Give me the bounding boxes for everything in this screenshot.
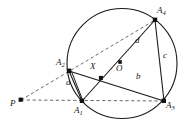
label-point-a2: A2 — [56, 58, 65, 67]
label-side-d: d — [135, 36, 140, 45]
label-point-a4-sub: 4 — [163, 9, 166, 16]
point-dot-a1 — [80, 99, 84, 103]
label-side-b: b — [136, 72, 141, 81]
label-side-a-text: a — [66, 77, 71, 87]
label-side-d-text: d — [135, 35, 140, 45]
segment-a1-a2-inner — [72, 72, 84, 102]
label-point-a3: A3 — [166, 101, 175, 110]
label-point-a2-sub: 2 — [62, 61, 65, 68]
dashed-line-p-a2-a4 — [21, 20, 155, 100]
segment-a2-a3 — [69, 71, 164, 101]
label-point-a3-sub: 3 — [172, 104, 175, 111]
label-point-a3-text: A — [166, 100, 172, 110]
point-dot-p — [19, 98, 23, 102]
label-point-a2-text: A — [56, 57, 62, 67]
label-point-p: P — [10, 99, 16, 108]
label-point-a4: A4 — [157, 6, 166, 15]
label-point-a4-text: A — [157, 5, 163, 15]
label-point-a1-sub: 1 — [80, 109, 83, 116]
point-dot-a2 — [67, 69, 71, 73]
point-dot-x — [99, 76, 103, 80]
label-point-a1: A1 — [74, 106, 83, 115]
label-point-x-text: X — [90, 61, 96, 71]
dashed-line-p-a1-a3 — [21, 100, 164, 101]
label-point-a1-text: A — [74, 105, 80, 115]
segment-a3-a4 — [155, 20, 164, 101]
label-side-c-text: c — [163, 50, 167, 60]
label-point-o-text: O — [116, 63, 123, 73]
point-dot-a4 — [153, 18, 157, 22]
label-point-p-text: P — [10, 98, 16, 108]
label-point-x: X — [90, 62, 96, 71]
label-side-a: a — [66, 78, 71, 87]
label-point-o: O — [116, 64, 123, 73]
label-side-b-text: b — [136, 71, 141, 81]
geometry-figure: P A1 A2 A3 A4 X O a b c d — [0, 0, 186, 136]
label-side-c: c — [163, 51, 167, 60]
